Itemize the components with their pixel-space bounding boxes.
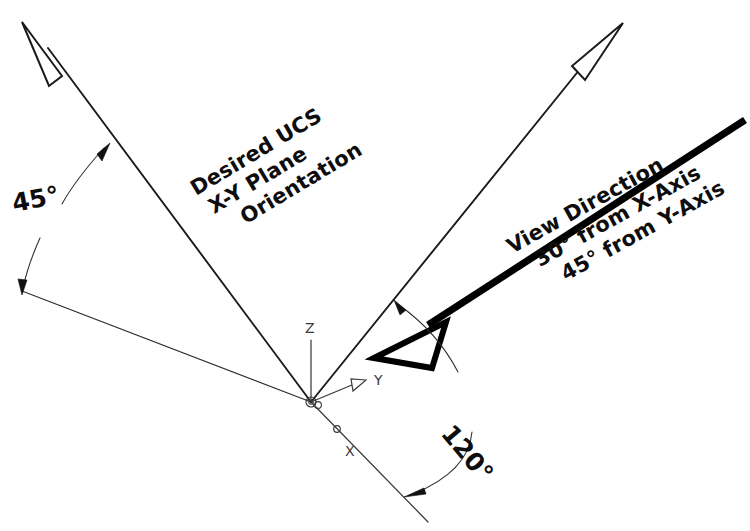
ucs-x-axis-label: X xyxy=(345,443,355,459)
ucs-z-axis-label: Z xyxy=(305,320,315,336)
ucs-y-axis-label: Y xyxy=(373,372,383,388)
ucs-orientation-diagram: 45° 120° Z Y X Desired UCS X-Y Pl xyxy=(0,0,750,531)
diagram-canvas: 45° 120° Z Y X Desired UCS X-Y Pl xyxy=(0,0,750,531)
canvas-background xyxy=(0,0,750,531)
